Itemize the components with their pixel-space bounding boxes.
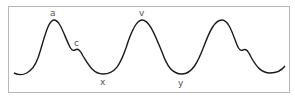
label-a: a [50, 8, 56, 18]
waveform-diagram: a c x v y [0, 0, 295, 96]
label-v: v [139, 8, 145, 18]
label-y: y [178, 78, 184, 88]
label-x: x [100, 77, 106, 87]
waveform-curve [14, 20, 285, 75]
label-c: c [74, 38, 79, 48]
